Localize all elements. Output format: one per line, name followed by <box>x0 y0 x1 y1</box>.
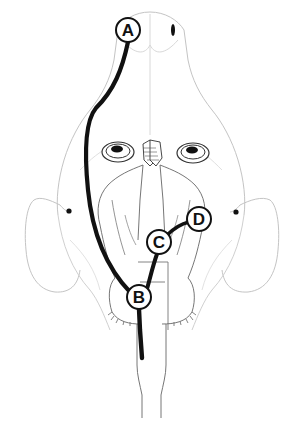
label-b-text: B <box>133 289 145 306</box>
label-a-text: A <box>122 22 134 39</box>
label-c-text: C <box>153 234 165 251</box>
left-eye <box>102 142 134 162</box>
olfactory-bulbs <box>143 140 162 166</box>
label-d-text: D <box>193 211 205 228</box>
right-ear-marker <box>233 209 238 214</box>
nasal-marker <box>171 24 175 36</box>
label-b: B <box>126 284 152 310</box>
label-d: D <box>186 206 212 232</box>
right-eye <box>177 143 209 163</box>
brain-outline <box>98 165 205 418</box>
diagram-canvas <box>0 0 301 427</box>
track-b-down <box>139 309 142 358</box>
anatomical-diagram: A B C D <box>0 0 301 427</box>
label-c: C <box>146 229 172 255</box>
label-a: A <box>115 17 141 43</box>
left-ear-marker <box>66 208 71 213</box>
